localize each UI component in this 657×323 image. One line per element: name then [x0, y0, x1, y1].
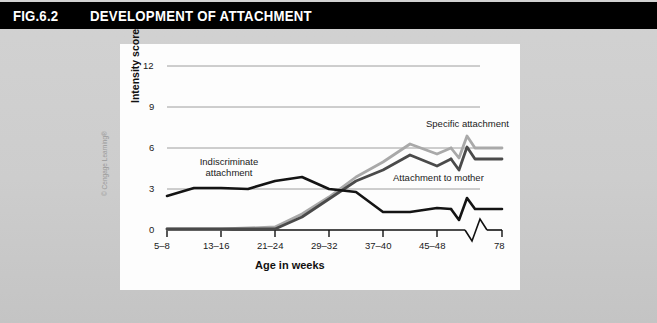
figure-title-bar: FIG.6.2 DEVELOPMENT OF ATTACHMENT [0, 2, 657, 29]
annotation-indiscriminate-attachment: Indiscriminate attachment [181, 156, 277, 178]
x-tick-13-16: 13–16 [203, 240, 229, 251]
y-tick-3: 3 [149, 183, 154, 194]
x-tick-29-32: 29–32 [311, 240, 337, 251]
x-tick-78: 78 [494, 240, 505, 251]
y-tick-6: 6 [149, 142, 154, 153]
series-indiscriminate-attachment [167, 177, 502, 220]
x-tick-45-48: 45–48 [419, 240, 445, 251]
x-tick-21-24: 21–24 [257, 240, 283, 251]
x-axis-label: Age in weeks [255, 259, 325, 271]
figure-number: FIG.6.2 [13, 7, 58, 24]
y-tick-12: 12 [143, 60, 154, 71]
copyright-notice: © Cengage Learning® [101, 131, 108, 196]
y-tick-9: 9 [149, 101, 154, 112]
x-tick-37-40: 37–40 [365, 240, 391, 251]
annotation-indiscriminate-line1: Indiscriminate [200, 156, 259, 167]
annotation-specific-attachment: Specific attachment [426, 118, 509, 129]
page-title: DEVELOPMENT OF ATTACHMENT [90, 7, 312, 24]
y-tick-0: 0 [149, 224, 154, 235]
annotation-attachment-to-mother: Attachment to mother [393, 172, 484, 183]
y-axis-label: Intensity score [129, 29, 141, 103]
figure-container: FIG.6.2 DEVELOPMENT OF ATTACHMENT © Ceng… [0, 0, 657, 323]
line-chart [120, 44, 520, 290]
annotation-indiscriminate-line2: attachment [206, 167, 253, 178]
x-tick-5-8: 5–8 [154, 240, 170, 251]
